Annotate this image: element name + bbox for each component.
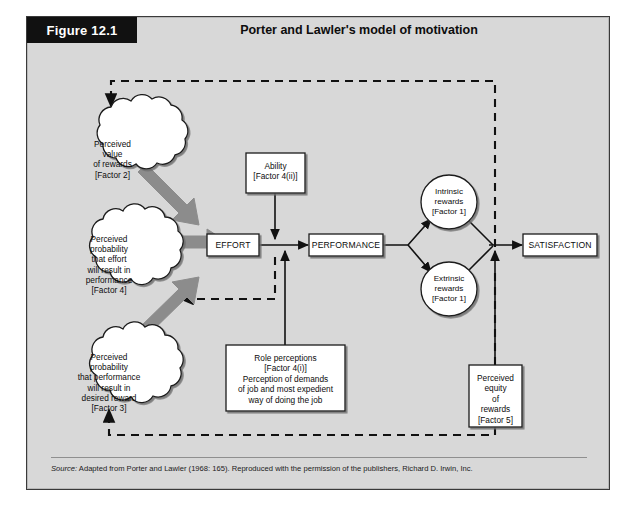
edge-performance-to-intrinsic xyxy=(382,219,431,245)
diagram-canvas: Perceived value of rewards [Factor 2] Pe… xyxy=(27,43,609,455)
figure-number-tag: Figure 12.1 xyxy=(27,17,137,43)
node-ability xyxy=(246,153,305,193)
figure-panel: Figure 12.1 Porter and Lawler's model of… xyxy=(26,16,610,490)
figure-page: Figure 12.1 Porter and Lawler's model of… xyxy=(0,0,632,512)
node-perceived-value-of-rewards xyxy=(97,95,188,169)
node-performance xyxy=(309,234,383,256)
source-text: Adapted from Porter and Lawler (1968: 16… xyxy=(77,464,473,473)
node-role-perceptions xyxy=(226,345,345,411)
node-extrinsic-rewards xyxy=(421,262,477,316)
edge-intrinsic-to-satisfaction xyxy=(468,220,493,245)
figure-title: Porter and Lawler's model of motivation xyxy=(137,17,609,43)
edge-performance-to-extrinsic xyxy=(408,245,431,272)
node-perceived-probability-performance-reward xyxy=(90,322,184,403)
node-satisfaction xyxy=(523,234,597,256)
node-perceived-probability-effort-performance xyxy=(90,204,184,285)
node-perceived-equity-of-rewards xyxy=(469,365,522,427)
node-intrinsic-rewards xyxy=(421,175,477,229)
source-divider xyxy=(51,457,587,458)
source-label: Source: xyxy=(51,464,77,473)
source-note: Source: Adapted from Porter and Lawler (… xyxy=(51,463,596,474)
node-effort xyxy=(207,234,259,256)
edge-extrinsic-to-satisfaction xyxy=(468,246,493,271)
